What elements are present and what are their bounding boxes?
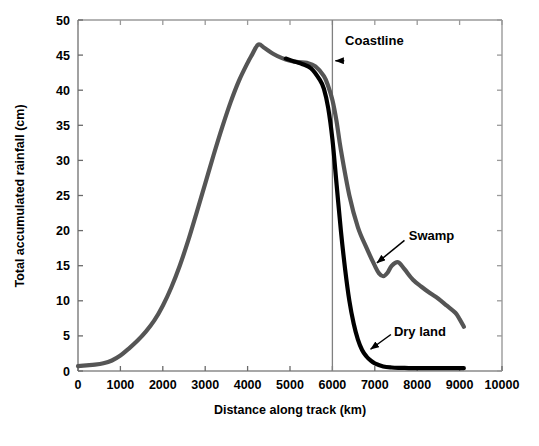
- y-tick-label: 40: [56, 84, 70, 98]
- x-axis-tick-labels: 0100020003000400050006000700080009000100…: [75, 378, 520, 392]
- x-tick-label: 3000: [191, 378, 219, 392]
- y-tick-label: 30: [56, 154, 70, 168]
- x-tick-label: 2000: [149, 378, 177, 392]
- x-tick-label: 1000: [106, 378, 134, 392]
- y-tick-label: 15: [56, 259, 70, 273]
- y-tick-label: 0: [63, 365, 70, 379]
- x-tick-label: 9000: [446, 378, 474, 392]
- x-tick-label: 8000: [403, 378, 431, 392]
- y-tick-label: 45: [56, 49, 70, 63]
- x-axis-title: Distance along track (km): [214, 403, 366, 417]
- x-tick-label: 10000: [485, 378, 520, 392]
- y-tick-label: 50: [56, 14, 70, 28]
- x-tick-label: 7000: [361, 378, 389, 392]
- x-tick-label: 5000: [276, 378, 304, 392]
- chart-canvas: 0100020003000400050006000700080009000100…: [0, 0, 539, 446]
- y-tick-label: 35: [56, 119, 70, 133]
- y-axis-tick-labels: 05101520253035404550: [56, 14, 70, 379]
- x-tick-label: 4000: [234, 378, 262, 392]
- y-tick-label: 25: [56, 189, 70, 203]
- rainfall-chart-figure: 0100020003000400050006000700080009000100…: [0, 0, 539, 446]
- x-tick-label: 6000: [318, 378, 346, 392]
- annotation-label-dry-land: Dry land: [394, 324, 446, 339]
- y-axis-title: Total accumulated rainfall (cm): [13, 104, 27, 287]
- y-tick-label: 5: [63, 329, 70, 343]
- annotation-label-swamp: Swamp: [409, 228, 455, 243]
- annotation-label-coastline: Coastline: [345, 33, 404, 48]
- y-tick-label: 20: [56, 224, 70, 238]
- y-tick-label: 10: [56, 294, 70, 308]
- x-tick-label: 0: [75, 378, 82, 392]
- plot-frame: [78, 20, 502, 371]
